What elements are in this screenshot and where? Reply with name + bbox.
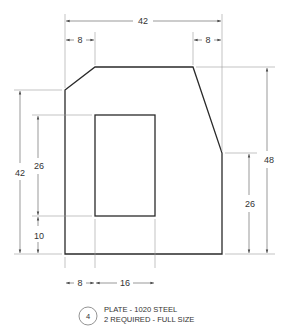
plate-outline (65, 67, 222, 254)
dim-cutout-left-offset: 8 (66, 278, 94, 288)
svg-text:8: 8 (77, 35, 82, 45)
svg-text:10: 10 (34, 231, 44, 241)
extension-lines (14, 14, 275, 268)
rectangular-cutout (95, 115, 155, 216)
part-title-line1: PLATE - 1020 STEEL (104, 305, 177, 314)
svg-text:42: 42 (138, 16, 148, 26)
svg-text:26: 26 (34, 161, 44, 171)
dim-cutout-bottom-offset: 10 (34, 217, 44, 253)
svg-text:8: 8 (77, 278, 82, 288)
svg-text:48: 48 (264, 155, 274, 165)
dim-left-edge: 42 (15, 91, 25, 253)
svg-text:42: 42 (15, 168, 25, 178)
dim-cutout-width: 16 (96, 278, 154, 288)
dim-overall-height: 48 (264, 68, 274, 253)
part-callout: 4 PLATE - 1020 STEEL 2 REQUIRED - FULL S… (79, 305, 194, 325)
part-number: 4 (86, 312, 90, 321)
svg-text:26: 26 (245, 199, 255, 209)
part-title-line2: 2 REQUIRED - FULL SIZE (104, 315, 194, 324)
svg-text:16: 16 (120, 278, 130, 288)
dim-top-left-chamfer: 8 (66, 35, 94, 45)
dim-right-edge: 26 (245, 154, 255, 253)
dim-top-right-chamfer: 8 (194, 35, 221, 45)
svg-text:8: 8 (205, 35, 210, 45)
plate-drawing: 42 8 8 48 26 42 26 10 (0, 0, 286, 326)
dim-cutout-height: 26 (34, 116, 44, 215)
dim-overall-width: 42 (66, 16, 221, 26)
